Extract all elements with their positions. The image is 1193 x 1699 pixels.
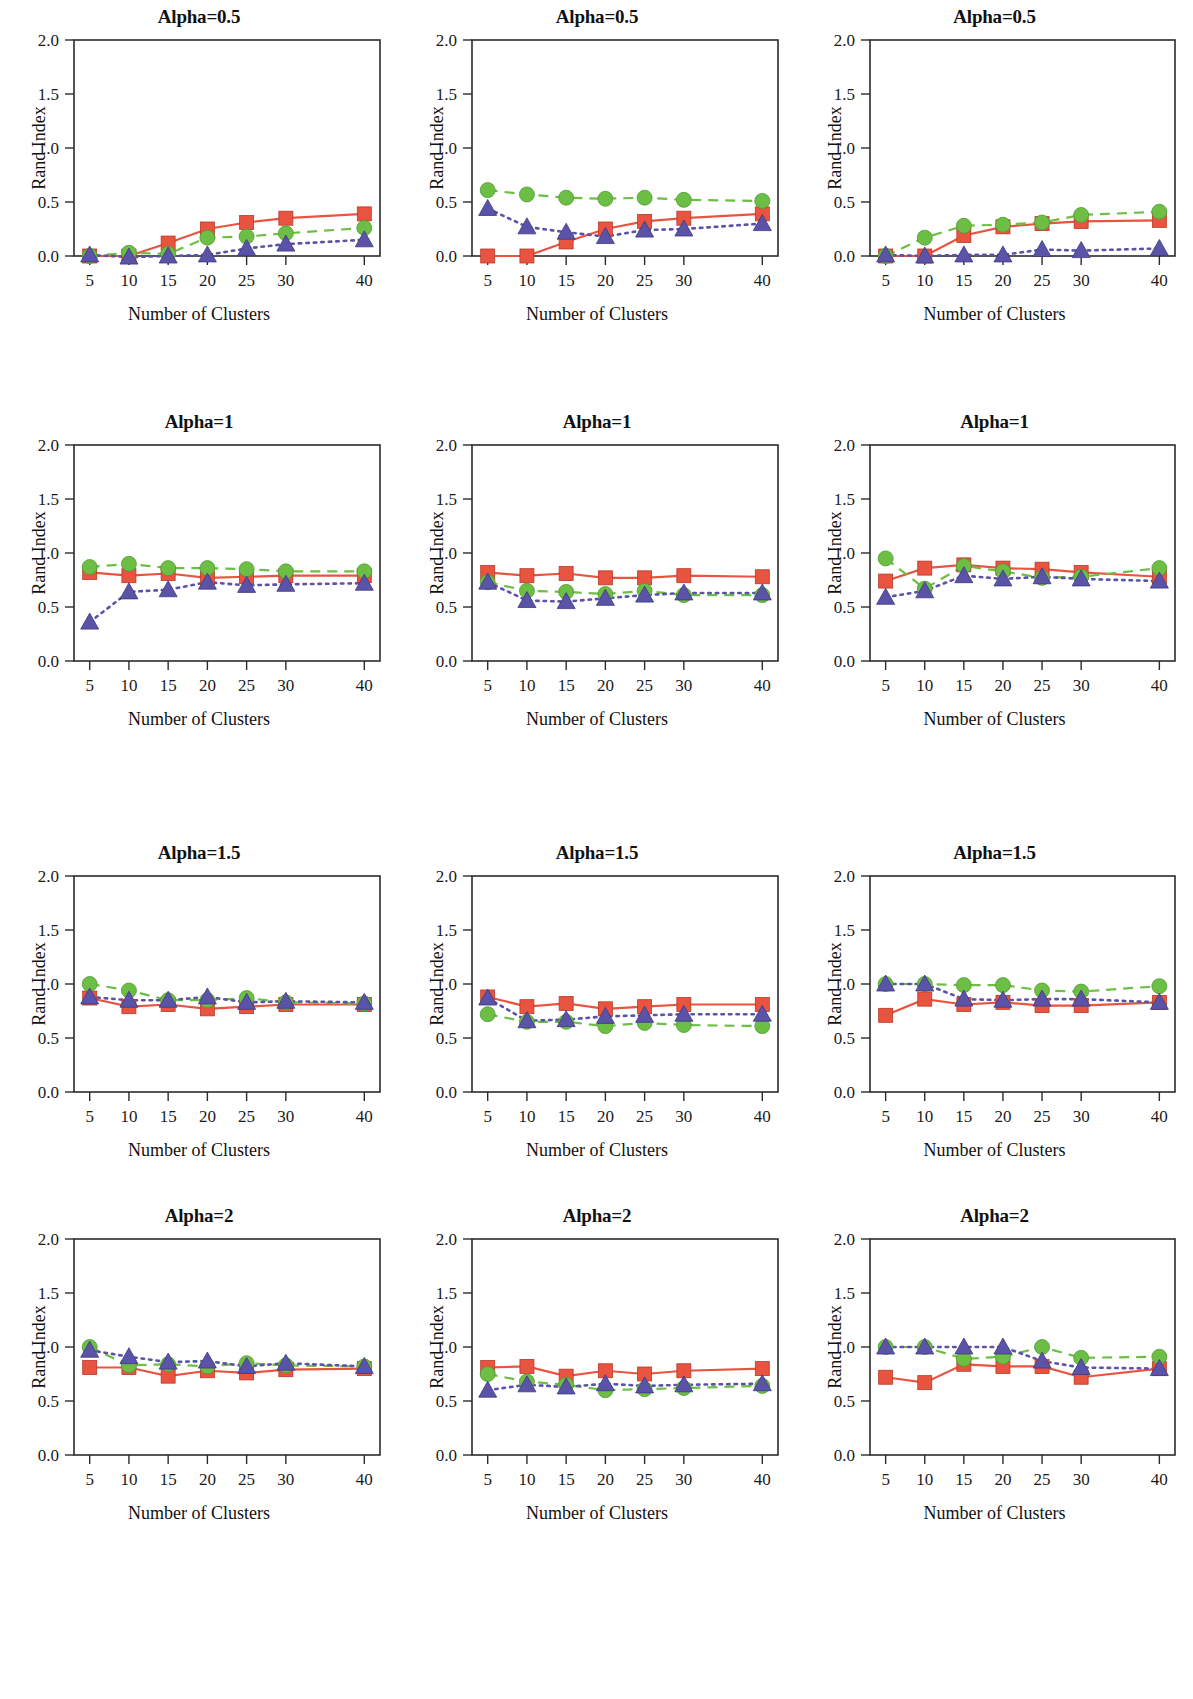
x-axis-label: Number of Clusters <box>398 1503 796 1524</box>
panel-title: Alpha=1 <box>796 395 1193 437</box>
x-tick-label: 20 <box>994 1470 1011 1489</box>
x-tick-label: 15 <box>955 676 972 695</box>
plot-frame <box>74 445 380 661</box>
chart-svg: 0.00.51.01.52.05101520253040 <box>0 868 398 1138</box>
data-point-marker <box>638 571 652 585</box>
y-tick-label: 0.0 <box>436 1446 457 1465</box>
x-tick-label: 25 <box>636 1107 653 1126</box>
x-tick-label: 40 <box>1151 1470 1168 1489</box>
y-tick-label: 0.5 <box>436 1392 457 1411</box>
panel-title: Alpha=0.5 <box>0 0 398 32</box>
x-tick-label: 20 <box>199 1107 216 1126</box>
y-tick-label: 2.0 <box>834 1231 855 1249</box>
x-axis-label: Number of Clusters <box>796 1503 1193 1524</box>
x-axis-label: Number of Clusters <box>0 1503 398 1524</box>
data-point-marker <box>559 567 573 581</box>
y-tick-label: 2.0 <box>436 868 457 886</box>
x-tick-label: 15 <box>160 676 177 695</box>
y-tick-label: 1.5 <box>436 1284 457 1303</box>
panel-title: Alpha=2 <box>796 1185 1193 1231</box>
x-tick-label: 10 <box>518 1470 535 1489</box>
x-tick-label: 30 <box>1073 676 1090 695</box>
panel-r1c3: Alpha=0.5 0.00.51.01.52.05101520253040Ra… <box>796 0 1193 395</box>
panel-r2c1: Alpha=1 0.00.51.01.52.05101520253040Rand… <box>0 395 398 810</box>
data-point-marker <box>1152 979 1167 994</box>
x-tick-label: 10 <box>916 271 933 290</box>
chart-svg: 0.00.51.01.52.05101520253040 <box>0 32 398 302</box>
x-tick-label: 20 <box>597 271 614 290</box>
y-axis-label: Rand Index <box>29 511 50 594</box>
panel-r4c2: Alpha=2 0.00.51.01.52.05101520253040Rand… <box>398 1185 796 1699</box>
y-tick-label: 0.5 <box>38 1029 59 1048</box>
data-point-marker <box>918 1376 932 1390</box>
chart-svg: 0.00.51.01.52.05101520253040 <box>398 1231 796 1501</box>
x-tick-label: 10 <box>518 1107 535 1126</box>
plot-frame <box>870 445 1175 661</box>
panel-title: Alpha=1 <box>398 395 796 437</box>
plot-area: 0.00.51.01.52.05101520253040Rand IndexNu… <box>398 32 796 325</box>
x-tick-label: 10 <box>120 271 137 290</box>
x-tick-label: 40 <box>1151 271 1168 290</box>
data-point-marker <box>995 978 1010 993</box>
y-tick-label: 0.0 <box>834 1446 855 1465</box>
x-tick-label: 15 <box>955 1107 972 1126</box>
data-point-marker <box>918 561 932 575</box>
panel-title: Alpha=1.5 <box>796 810 1193 868</box>
data-point-marker <box>1074 207 1089 222</box>
y-tick-label: 1.5 <box>38 921 59 940</box>
x-tick-label: 25 <box>636 1470 653 1489</box>
y-axis-label: Rand Index <box>825 1305 846 1388</box>
data-point-marker <box>755 193 770 208</box>
chart-svg: 0.00.51.01.52.05101520253040 <box>398 437 796 707</box>
x-tick-label: 5 <box>881 1107 890 1126</box>
x-tick-label: 20 <box>199 271 216 290</box>
y-tick-label: 2.0 <box>834 437 855 455</box>
y-tick-label: 0.0 <box>834 1083 855 1102</box>
y-tick-label: 1.5 <box>834 85 855 104</box>
x-tick-label: 40 <box>754 271 771 290</box>
panel-r2c3: Alpha=1 0.00.51.01.52.05101520253040Rand… <box>796 395 1193 810</box>
x-tick-label: 30 <box>675 271 692 290</box>
x-tick-label: 25 <box>1034 1107 1051 1126</box>
x-tick-label: 20 <box>199 676 216 695</box>
x-tick-label: 5 <box>881 676 890 695</box>
data-point-marker <box>878 551 893 566</box>
data-point-marker <box>637 190 652 205</box>
data-point-marker <box>755 570 769 584</box>
y-tick-label: 1.5 <box>38 1284 59 1303</box>
x-tick-label: 15 <box>955 1470 972 1489</box>
x-tick-label: 20 <box>597 1107 614 1126</box>
data-point-marker <box>519 187 534 202</box>
x-tick-label: 5 <box>483 676 492 695</box>
x-tick-label: 25 <box>238 271 255 290</box>
y-tick-label: 2.0 <box>436 437 457 455</box>
x-tick-label: 30 <box>277 271 294 290</box>
x-tick-label: 15 <box>160 1470 177 1489</box>
data-point-marker <box>200 230 215 245</box>
data-point-marker <box>1035 215 1050 230</box>
panel-title: Alpha=0.5 <box>796 0 1193 32</box>
y-axis-label: Rand Index <box>29 942 50 1025</box>
y-tick-label: 2.0 <box>38 868 59 886</box>
y-tick-label: 0.5 <box>38 193 59 212</box>
y-tick-label: 0.0 <box>38 1083 59 1102</box>
plot-area: 0.00.51.01.52.05101520253040Rand IndexNu… <box>398 437 796 730</box>
plot-area: 0.00.51.01.52.05101520253040Rand IndexNu… <box>0 32 398 325</box>
x-tick-label: 5 <box>85 271 94 290</box>
x-tick-label: 15 <box>558 1107 575 1126</box>
x-tick-label: 15 <box>955 271 972 290</box>
plot-area: 0.00.51.01.52.05101520253040Rand IndexNu… <box>796 868 1193 1161</box>
panel-title: Alpha=2 <box>398 1185 796 1231</box>
data-point-marker <box>520 249 534 263</box>
data-point-marker <box>279 211 293 225</box>
plot-area: 0.00.51.01.52.05101520253040Rand IndexNu… <box>0 437 398 730</box>
x-tick-label: 5 <box>85 1470 94 1489</box>
y-tick-label: 0.5 <box>834 193 855 212</box>
data-point-marker <box>480 1367 495 1382</box>
x-tick-label: 15 <box>558 676 575 695</box>
y-tick-label: 0.0 <box>436 1083 457 1102</box>
data-point-marker <box>480 1007 495 1022</box>
panel-r4c1: Alpha=2 0.00.51.01.52.05101520253040Rand… <box>0 1185 398 1699</box>
y-tick-label: 0.5 <box>834 598 855 617</box>
plot-area: 0.00.51.01.52.05101520253040Rand IndexNu… <box>398 1231 796 1524</box>
